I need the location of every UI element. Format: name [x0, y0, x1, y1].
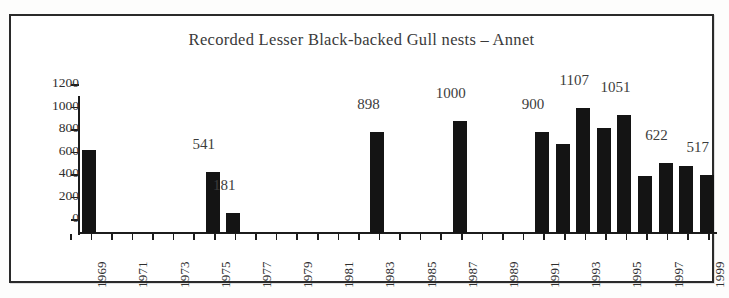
bar-value-label: 1051	[589, 79, 641, 96]
y-axis-tick-label: 1200	[39, 75, 79, 91]
x-axis-tick	[358, 234, 360, 240]
x-axis-tick	[708, 234, 710, 240]
x-axis-tick	[214, 234, 216, 240]
x-axis-tick	[605, 234, 607, 240]
x-axis-label: 1977	[259, 261, 275, 288]
bar	[679, 166, 693, 234]
bar	[597, 128, 611, 233]
bars-layer	[79, 98, 716, 233]
x-axis-tick	[626, 234, 628, 240]
x-axis-tick	[523, 234, 525, 240]
y-axis-tick-label: 400	[39, 165, 79, 181]
x-axis-tick	[296, 234, 298, 240]
bar	[535, 132, 549, 233]
bar	[556, 144, 570, 233]
x-axis-tick	[482, 234, 484, 240]
bar	[700, 175, 714, 233]
x-axis-label: 1987	[465, 261, 481, 288]
y-axis-tick-label: 0	[39, 210, 79, 226]
x-axis-label: 1971	[135, 261, 151, 288]
x-axis-label: 1991	[547, 261, 563, 288]
x-axis-tick	[379, 234, 381, 240]
x-axis-label: 1979	[300, 261, 316, 288]
bar-value-label: 541	[178, 136, 230, 153]
x-axis-tick	[399, 234, 401, 240]
bar	[659, 163, 673, 233]
x-axis-label: 1995	[629, 261, 645, 288]
chart-frame: Recorded Lesser Black-backed Gull nests …	[9, 14, 714, 283]
bar	[638, 176, 652, 233]
x-axis-tick	[461, 234, 463, 240]
x-axis-label: 1969	[94, 261, 110, 288]
x-axis-label: 1981	[341, 261, 357, 288]
x-axis-tick	[564, 234, 566, 240]
bar-value-label: 900	[507, 96, 559, 113]
x-axis-tick	[235, 234, 237, 240]
bar	[576, 108, 590, 233]
x-axis-tick	[502, 234, 504, 240]
x-axis-tick	[193, 234, 195, 240]
x-axis-tick	[132, 234, 134, 240]
x-axis-labels: 1969197119731975197719791981198319851987…	[79, 242, 716, 294]
bar-value-label: 181	[198, 177, 250, 194]
x-axis-tick	[338, 234, 340, 240]
bar	[226, 213, 240, 233]
y-axis-tick-label: 200	[39, 188, 79, 204]
x-axis-label: 1989	[506, 261, 522, 288]
x-axis-label: 1985	[424, 261, 440, 288]
x-axis-tick	[276, 234, 278, 240]
x-axis-tick	[152, 234, 154, 240]
x-axis-tick	[70, 234, 72, 240]
bar	[617, 115, 631, 233]
chart-title: Recorded Lesser Black-backed Gull nests …	[11, 30, 712, 50]
y-axis-tick-label: 1000	[39, 98, 79, 114]
y-axis-tick-label: 800	[39, 120, 79, 136]
x-axis-label: 1997	[671, 261, 687, 288]
y-axis-tick-label: 600	[39, 143, 79, 159]
bar-value-label: 1000	[425, 85, 477, 102]
x-axis-label: 1999	[712, 261, 728, 288]
x-axis-tick	[317, 234, 319, 240]
x-axis-tick	[543, 234, 545, 240]
x-axis-tick	[646, 234, 648, 240]
x-axis-label: 1983	[382, 261, 398, 288]
x-axis-label: 1993	[588, 261, 604, 288]
x-axis-tick	[111, 234, 113, 240]
figure-root: Recorded Lesser Black-backed Gull nests …	[0, 0, 729, 298]
x-axis-tick	[173, 234, 175, 240]
bar-value-label: 517	[672, 139, 724, 156]
x-axis-tick	[687, 234, 689, 240]
bar-value-label: 898	[342, 96, 394, 113]
x-axis-label: 1973	[177, 261, 193, 288]
x-axis-tick	[420, 234, 422, 240]
x-axis-tick	[585, 234, 587, 240]
x-axis-label: 1975	[218, 261, 234, 288]
bar	[453, 121, 467, 234]
x-axis-tick	[667, 234, 669, 240]
bar	[82, 150, 96, 233]
x-axis-tick	[440, 234, 442, 240]
bar	[370, 132, 384, 233]
x-axis-tick	[255, 234, 257, 240]
x-axis-tick	[91, 234, 93, 240]
